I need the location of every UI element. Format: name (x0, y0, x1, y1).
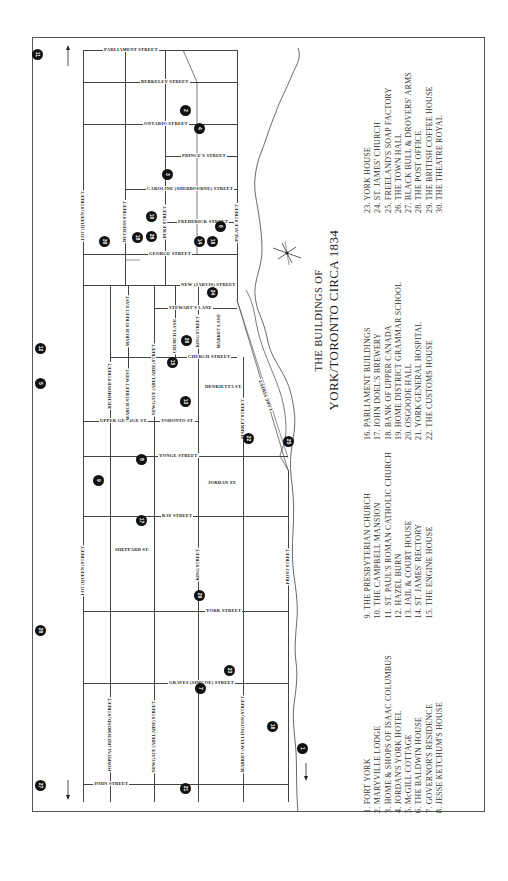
building-marker-12[interactable]: 12 (35, 343, 46, 354)
legend-item: 26. THE TOWN HALL (394, 72, 404, 213)
legend-item: 28. THE POST OFFICE (414, 72, 424, 213)
building-marker-26[interactable]: 26 (181, 335, 192, 346)
legend-item: 30. THE THEATRE ROYAL (435, 72, 445, 213)
shoreline-inner (246, 290, 288, 470)
legend-item: 17. JOHN DOEL'S BREWERY (373, 282, 383, 440)
street-label-march-east: MARCH STREET EAST (125, 295, 130, 347)
legend-item: 19. HOME DISTRICT GRAMMAR SCHOOL (394, 282, 404, 440)
legend-item: 27. BLACK BULL & DROVERS' ARMS (404, 72, 414, 213)
north-road-line (183, 50, 197, 82)
street-line-lot-queen (83, 50, 84, 802)
legend-item: 12. HAZEL BURN (394, 452, 404, 618)
building-marker-18[interactable]: 18 (132, 232, 143, 243)
building-marker-22[interactable]: 22 (243, 433, 254, 444)
street-label-bay: BAY STREET (161, 513, 193, 518)
legend-item: 15. THE ENGINE HOUSE (425, 452, 435, 618)
building-marker-3[interactable]: 3 (162, 169, 173, 180)
street-label-parliament: PARLIAMENT STREET (103, 47, 159, 52)
building-marker-11[interactable]: 11 (32, 49, 43, 60)
street-label-market-wellington: MARKET (WELLINGTON) STREET (240, 695, 245, 773)
legend-column-1: 1. FORT YORK 2. MARYVILLE LODGE 3. HOME … (363, 655, 445, 813)
building-marker-4[interactable]: 4 (194, 123, 205, 134)
street-label-newgate-bottom: NEWGATE (ADELAIDE) STREET (151, 700, 156, 773)
legend-item: 23. YORK HOUSE (363, 72, 373, 213)
street-label-yonge: YONGE STREET (158, 453, 199, 458)
street-label-henrietta: HENRIETTA ST. (204, 384, 243, 389)
building-marker-29[interactable]: 29 (194, 590, 205, 601)
street-label-church: CHURCH STREET (187, 354, 231, 359)
street-label-john: JOHN STREET (93, 781, 129, 786)
street-label-king-top: KING STREET (195, 315, 200, 349)
street-label-front: FRONT STREET (285, 548, 290, 585)
building-marker-19[interactable]: 19 (207, 236, 218, 247)
shoreline (255, 48, 300, 812)
building-marker-9[interactable]: 9 (93, 475, 104, 486)
title-line-2: YORK/TORONTO CIRCA 1834 (326, 230, 341, 411)
street-label-king-bottom: KING STREET (195, 548, 200, 582)
street-label-hospital: HOSPITAL (RICHMOND) STREET (107, 697, 112, 772)
street-line-palace (237, 50, 238, 300)
building-marker-20[interactable]: 20 (35, 625, 46, 636)
building-marker-23[interactable]: 23 (224, 665, 235, 676)
building-marker-10[interactable]: 10 (146, 211, 157, 222)
legend-item: 5. McGILL COTTAGE (404, 655, 414, 813)
street-label-lot-queen-top: LOT (QUEEN) STREET (80, 190, 85, 241)
street-line-york (83, 611, 288, 612)
legend-item: 20. OSGOODE HALL (404, 282, 414, 440)
building-marker-13[interactable]: 13 (180, 396, 191, 407)
street-label-ontario: ONTARIO STREET (143, 121, 189, 126)
street-label-newgate: NEWGATE (ADELAIDE) STREET (151, 343, 156, 416)
title-line-1: THE BUILDINGS OF (312, 230, 326, 411)
map-title: THE BUILDINGS OF YORK/TORONTO CIRCA 1834 (312, 230, 341, 411)
street-label-upper-george: UPPER GEORGE ST. (99, 418, 148, 423)
legend-column-2: 9. THE PRESBYTERIAN CHURCH 10. THE CAMPB… (363, 452, 435, 618)
street-line-king (198, 285, 199, 802)
compass-rose-icon (273, 241, 301, 265)
legend-item: 22. THE CUSTOMS HOUSE (425, 282, 435, 440)
building-marker-24[interactable]: 24 (207, 287, 218, 298)
legend-item: 11. ST. PAUL'S ROMAN CATHOLIC CHURCH (384, 452, 394, 618)
building-marker-30[interactable]: 30 (99, 236, 110, 247)
legend-item: 9. THE PRESBYTERIAN CHURCH (363, 452, 373, 618)
building-marker-17[interactable]: 17 (136, 515, 147, 526)
building-marker-8[interactable]: 8 (136, 454, 147, 465)
street-line-duchess (125, 50, 126, 285)
building-marker-5[interactable]: 5 (35, 378, 46, 389)
street-label-toronto: TORONTO ST. (160, 418, 195, 423)
legend-item: 4. JORDAN'S YORK HOTEL (394, 655, 404, 813)
legend-column-3: 16. PARLIAMENT BUILDINGS 17. JOHN DOEL'S… (363, 282, 435, 440)
legend-item: 8. JESSE KETCHUM'S HOUSE (435, 655, 445, 813)
street-label-caroline: CAROLINE (SHERBOURNE) STREET (146, 186, 234, 191)
building-marker-1[interactable]: 1 (297, 743, 308, 754)
building-marker-16[interactable]: 16 (267, 721, 278, 732)
building-marker-2[interactable]: 2 (180, 105, 191, 116)
legend-column-4: 23. YORK HOUSE 24. ST. JAMES' CHURCH 25.… (363, 72, 445, 213)
legend-item: 7. GOVERNOR'S RESIDENCE (425, 655, 435, 813)
street-label-market-lane: MARKET LANE (216, 313, 221, 350)
legend-item: 25. FREELAND'S SOAP FACTORY (384, 72, 394, 213)
street-label-church-lane: CHURCH LANE (172, 318, 177, 354)
building-marker-21[interactable]: 21 (180, 783, 191, 794)
legend-item: 6. THE BALDWIN HOUSE (414, 655, 424, 813)
street-label-jordan: JORDAN ST. (207, 480, 238, 485)
street-line-duke (165, 50, 166, 285)
building-marker-15[interactable]: 15 (167, 357, 178, 368)
street-label-new-jarvis: NEW (JARVIS) STREET (180, 282, 237, 287)
building-marker-7[interactable]: 7 (195, 683, 206, 694)
building-marker-27[interactable]: 27 (35, 780, 46, 791)
street-label-princes: PRINCE'S STREET (181, 153, 227, 158)
street-label-stewarts-lane: STEWART'S LANE (168, 305, 213, 310)
legend-item: 3. HOME & SHOPS OF ISAAC COLUMBUS (384, 655, 394, 813)
street-label-george: GEORGE STREET (148, 251, 192, 256)
street-label-berkeley: BERKELEY STREET (140, 79, 190, 84)
legend-item: 21. YORK GENERAL HOSPITAL (414, 282, 424, 440)
street-label-march-west: MARCH STREET WEST (125, 368, 130, 421)
building-marker-25[interactable]: 25 (283, 436, 294, 447)
building-marker-6[interactable]: 6 (215, 221, 226, 232)
street-label-sheppard: SHEPPARD ST. (114, 547, 150, 552)
building-marker-14[interactable]: 14 (194, 236, 205, 247)
street-label-duchess: DUCHESS STREET (122, 200, 127, 243)
legend-item: 10. THE CAMPBELL MANSION (373, 452, 383, 618)
building-marker-28[interactable]: 28 (146, 231, 157, 242)
street-line-front (288, 470, 289, 802)
